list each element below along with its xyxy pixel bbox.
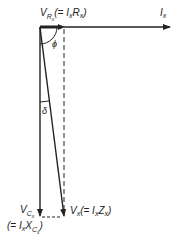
vcx-eq-label: (= IxXCx) xyxy=(7,220,43,235)
delta-label: δ xyxy=(42,106,48,116)
vx-label: Vx(= IxZx) xyxy=(70,205,111,217)
delta-arc xyxy=(40,101,49,102)
phasor-diagram: VRx(= IxRx) Ix ϕ δ VCx (= IxXCx) Vx(= Ix… xyxy=(0,0,174,237)
vrx-arrowhead xyxy=(58,24,64,30)
vx-phasor xyxy=(40,27,64,216)
vcx-label: VCx xyxy=(20,204,35,219)
ix-label: Ix xyxy=(160,7,167,19)
phi-label: ϕ xyxy=(52,39,57,49)
vrx-label: VRx(= IxRx) xyxy=(40,7,87,22)
